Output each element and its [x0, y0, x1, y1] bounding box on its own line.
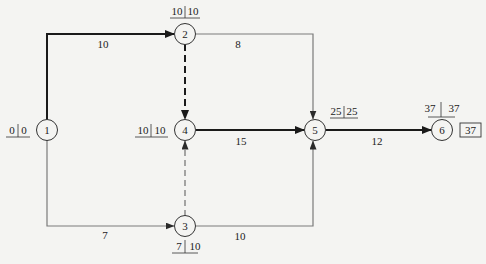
edge-1-3-duration: 7	[102, 229, 108, 241]
edge-4-5: 15	[196, 130, 304, 147]
node-4-earliest: 10	[138, 124, 150, 136]
edge-5-6-duration: 12	[372, 135, 383, 147]
node-3-earliest: 7	[176, 240, 182, 252]
network-diagram: 10 7 8 15 10 12 1 0 0	[0, 0, 486, 264]
node-6-earliest: 37	[425, 102, 437, 114]
node-1-times: 0 0	[6, 124, 30, 137]
edge-1-2: 10	[47, 34, 174, 120]
edge-4-5-duration: 15	[236, 135, 248, 147]
total-duration-box: 37	[460, 123, 481, 137]
node-2-latest: 10	[188, 5, 200, 17]
node-1-latest: 0	[21, 124, 27, 136]
edge-3-5-duration: 10	[235, 230, 247, 242]
total-duration: 37	[465, 124, 477, 136]
node-4-times: 10 10	[135, 124, 168, 137]
node-5-earliest: 25	[331, 105, 343, 117]
node-1: 1 0 0	[6, 120, 58, 141]
node-3-label: 3	[182, 220, 188, 232]
edge-1-2-duration: 10	[98, 38, 110, 50]
node-2-label: 2	[182, 28, 188, 40]
node-5-label: 5	[312, 124, 318, 136]
node-4-label: 4	[182, 124, 188, 136]
node-3-times: 7 10	[172, 240, 201, 253]
node-2-earliest: 10	[172, 5, 184, 17]
edge-3-5: 10	[196, 141, 313, 242]
node-5-times: 25 25	[330, 105, 358, 118]
node-4: 4 10 10	[135, 120, 196, 141]
node-2-times: 10 10	[170, 5, 200, 18]
node-1-earliest: 0	[9, 124, 15, 136]
edge-5-6: 12	[326, 130, 431, 147]
node-6-times: 37 37	[425, 102, 461, 117]
node-6-latest: 37	[449, 102, 461, 114]
node-2: 2 10 10	[170, 5, 200, 45]
edge-1-3: 7	[47, 140, 174, 241]
node-6-label: 6	[439, 124, 445, 136]
node-3: 3 7 10	[172, 216, 201, 254]
node-1-label: 1	[44, 124, 50, 136]
edge-2-5-duration: 8	[235, 38, 241, 50]
node-3-latest: 10	[190, 240, 202, 252]
node-6: 6 37 37	[425, 102, 461, 141]
edge-2-5: 8	[196, 34, 313, 119]
node-5-latest: 25	[347, 105, 359, 117]
node-4-latest: 10	[155, 124, 167, 136]
